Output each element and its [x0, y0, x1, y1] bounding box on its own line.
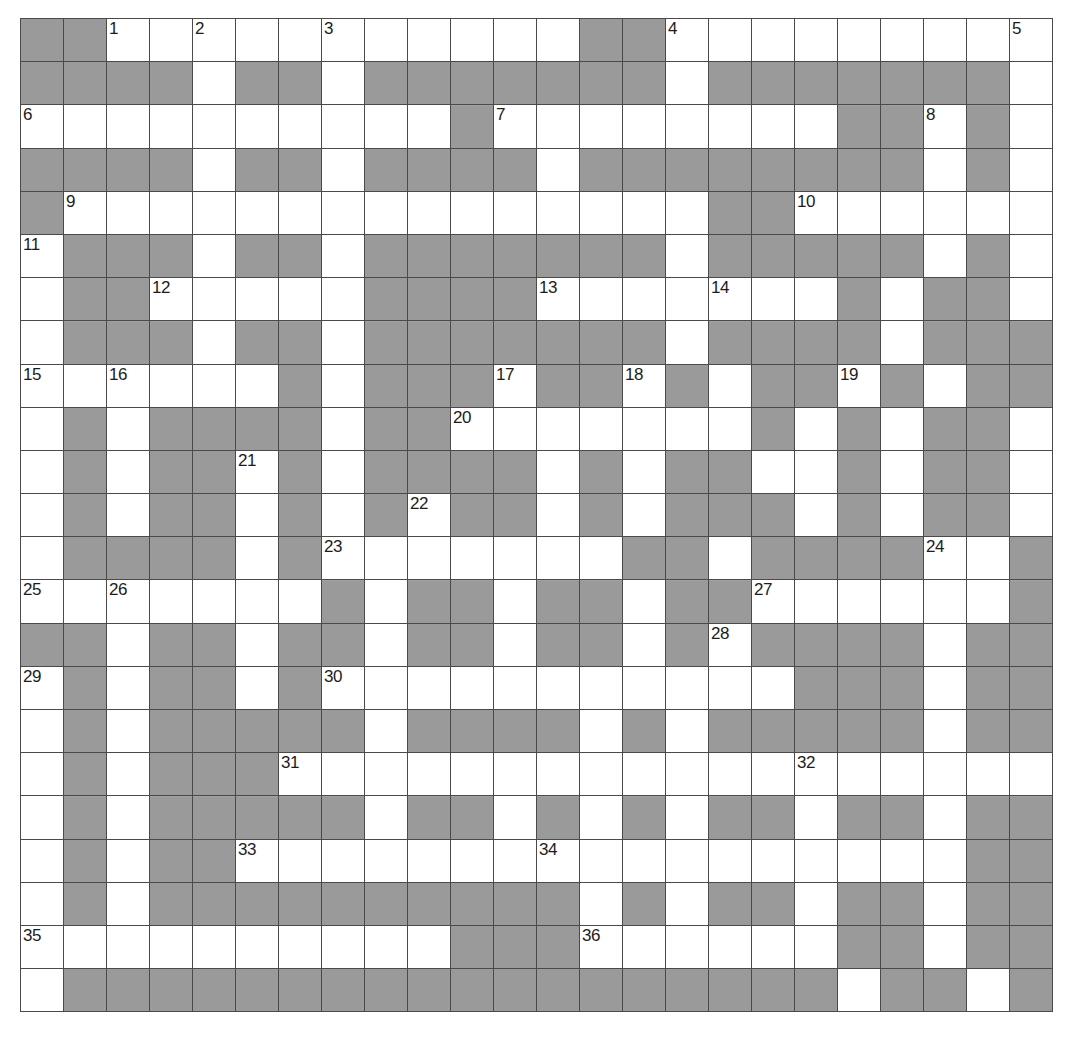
crossword-open-cell[interactable] — [795, 494, 838, 537]
crossword-open-cell[interactable] — [494, 796, 537, 839]
crossword-open-cell[interactable] — [795, 882, 838, 925]
crossword-open-cell[interactable] — [666, 234, 709, 277]
crossword-open-cell[interactable] — [881, 753, 924, 796]
crossword-open-cell[interactable] — [838, 839, 881, 882]
crossword-open-cell[interactable] — [924, 796, 967, 839]
crossword-open-cell[interactable] — [1010, 148, 1053, 191]
crossword-open-cell[interactable] — [623, 407, 666, 450]
crossword-open-cell[interactable] — [666, 666, 709, 709]
crossword-open-cell[interactable] — [709, 839, 752, 882]
crossword-open-cell[interactable] — [322, 839, 365, 882]
crossword-open-cell[interactable] — [236, 19, 279, 62]
crossword-open-cell[interactable] — [193, 148, 236, 191]
crossword-open-cell[interactable] — [193, 321, 236, 364]
crossword-open-cell[interactable] — [494, 537, 537, 580]
crossword-open-cell[interactable] — [236, 191, 279, 234]
crossword-open-cell[interactable] — [881, 494, 924, 537]
crossword-open-cell[interactable] — [666, 753, 709, 796]
crossword-open-cell[interactable] — [193, 580, 236, 623]
crossword-open-cell[interactable] — [150, 19, 193, 62]
crossword-open-cell[interactable] — [279, 580, 322, 623]
crossword-open-cell[interactable] — [924, 580, 967, 623]
crossword-open-cell[interactable] — [21, 407, 64, 450]
crossword-open-cell[interactable] — [279, 839, 322, 882]
crossword-open-cell[interactable] — [881, 191, 924, 234]
crossword-open-cell[interactable] — [408, 537, 451, 580]
crossword-open-cell[interactable] — [107, 796, 150, 839]
crossword-open-cell[interactable] — [451, 19, 494, 62]
crossword-open-cell[interactable]: 30 — [322, 666, 365, 709]
crossword-open-cell[interactable] — [107, 105, 150, 148]
crossword-open-cell[interactable] — [881, 580, 924, 623]
crossword-open-cell[interactable] — [1010, 105, 1053, 148]
crossword-open-cell[interactable]: 15 — [21, 364, 64, 407]
crossword-open-cell[interactable]: 24 — [924, 537, 967, 580]
crossword-open-cell[interactable] — [881, 321, 924, 364]
crossword-open-cell[interactable]: 17 — [494, 364, 537, 407]
crossword-open-cell[interactable] — [795, 450, 838, 493]
crossword-open-cell[interactable] — [279, 105, 322, 148]
crossword-open-cell[interactable] — [107, 839, 150, 882]
crossword-open-cell[interactable] — [494, 19, 537, 62]
crossword-open-cell[interactable] — [623, 450, 666, 493]
crossword-open-cell[interactable] — [494, 753, 537, 796]
crossword-open-cell[interactable] — [408, 19, 451, 62]
crossword-open-cell[interactable] — [21, 537, 64, 580]
crossword-open-cell[interactable] — [1010, 62, 1053, 105]
crossword-open-cell[interactable] — [150, 364, 193, 407]
crossword-open-cell[interactable] — [1010, 278, 1053, 321]
crossword-open-cell[interactable] — [537, 666, 580, 709]
crossword-open-cell[interactable] — [795, 796, 838, 839]
crossword-open-cell[interactable] — [193, 191, 236, 234]
crossword-open-cell[interactable] — [623, 623, 666, 666]
crossword-open-cell[interactable]: 23 — [322, 537, 365, 580]
crossword-open-cell[interactable] — [580, 753, 623, 796]
crossword-open-cell[interactable] — [150, 925, 193, 968]
crossword-open-cell[interactable] — [838, 753, 881, 796]
crossword-open-cell[interactable]: 22 — [408, 494, 451, 537]
crossword-open-cell[interactable] — [881, 839, 924, 882]
crossword-open-cell[interactable] — [752, 666, 795, 709]
crossword-open-cell[interactable] — [21, 494, 64, 537]
crossword-open-cell[interactable] — [322, 278, 365, 321]
crossword-open-cell[interactable]: 14 — [709, 278, 752, 321]
crossword-open-cell[interactable] — [107, 753, 150, 796]
crossword-open-cell[interactable] — [881, 278, 924, 321]
crossword-open-cell[interactable] — [365, 580, 408, 623]
crossword-open-cell[interactable] — [107, 494, 150, 537]
crossword-open-cell[interactable] — [924, 925, 967, 968]
crossword-open-cell[interactable] — [795, 925, 838, 968]
crossword-open-cell[interactable]: 36 — [580, 925, 623, 968]
crossword-open-cell[interactable] — [1010, 407, 1053, 450]
crossword-open-cell[interactable] — [451, 666, 494, 709]
crossword-open-cell[interactable] — [322, 234, 365, 277]
crossword-open-cell[interactable]: 33 — [236, 839, 279, 882]
crossword-open-cell[interactable] — [709, 364, 752, 407]
crossword-open-cell[interactable] — [451, 839, 494, 882]
crossword-open-cell[interactable] — [967, 580, 1010, 623]
crossword-open-cell[interactable] — [21, 753, 64, 796]
crossword-open-cell[interactable] — [881, 450, 924, 493]
crossword-open-cell[interactable] — [64, 580, 107, 623]
crossword-open-cell[interactable] — [580, 839, 623, 882]
crossword-open-cell[interactable] — [666, 925, 709, 968]
crossword-open-cell[interactable] — [623, 839, 666, 882]
crossword-open-cell[interactable] — [322, 105, 365, 148]
crossword-open-cell[interactable] — [236, 537, 279, 580]
crossword-open-cell[interactable] — [967, 19, 1010, 62]
crossword-open-cell[interactable] — [150, 191, 193, 234]
crossword-open-cell[interactable]: 1 — [107, 19, 150, 62]
crossword-open-cell[interactable] — [451, 537, 494, 580]
crossword-open-cell[interactable] — [236, 925, 279, 968]
crossword-open-cell[interactable]: 10 — [795, 191, 838, 234]
crossword-open-cell[interactable] — [752, 105, 795, 148]
crossword-open-cell[interactable] — [924, 666, 967, 709]
crossword-open-cell[interactable] — [21, 796, 64, 839]
crossword-open-cell[interactable] — [881, 19, 924, 62]
crossword-open-cell[interactable] — [709, 537, 752, 580]
crossword-open-cell[interactable] — [752, 19, 795, 62]
crossword-open-cell[interactable] — [322, 494, 365, 537]
crossword-open-cell[interactable] — [1010, 753, 1053, 796]
crossword-open-cell[interactable] — [967, 537, 1010, 580]
crossword-open-cell[interactable] — [21, 321, 64, 364]
